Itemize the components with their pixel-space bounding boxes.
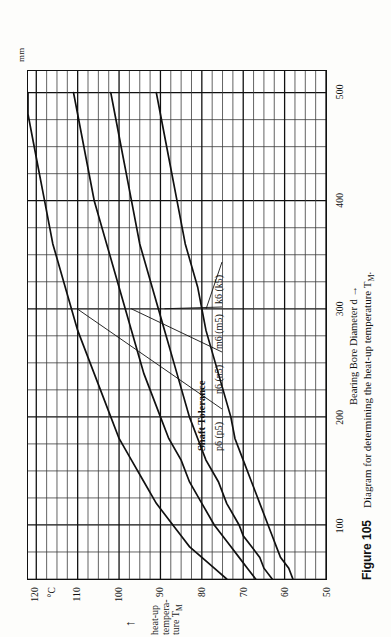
figure-caption-subscript: M bbox=[367, 274, 376, 281]
figure-caption-period: . bbox=[361, 272, 373, 275]
rotated-figure-stage: 100200300400500 mm 1201101009080706050 °… bbox=[0, 0, 391, 637]
y-axis-unit-label: °C bbox=[47, 587, 57, 615]
x-tick-400: 400 bbox=[335, 193, 345, 208]
chart-plot-area bbox=[27, 70, 327, 580]
x-tick-200: 200 bbox=[335, 410, 345, 425]
figure-105: 100200300400500 mm 1201101009080706050 °… bbox=[0, 0, 391, 637]
y-tick-100: 100 bbox=[114, 587, 124, 619]
y-axis-title-line3: ture TM bbox=[171, 599, 186, 635]
y-tick-120: 120 bbox=[30, 587, 40, 619]
y-axis-title-line1: heat-up bbox=[150, 599, 161, 635]
y-axis-title: heat-up tempera- ture TM bbox=[150, 599, 186, 635]
x-tick-300: 300 bbox=[335, 301, 345, 316]
figure-caption: Figure 105Diagram for determining the he… bbox=[360, 272, 376, 580]
figure-caption-text: Diagram for determining the heat-up temp… bbox=[361, 282, 373, 508]
x-axis-title: Bearing Bore Diameter d → bbox=[348, 286, 359, 405]
chart-svg bbox=[28, 71, 326, 579]
y-tick-110: 110 bbox=[72, 587, 82, 619]
y-tick-50: 50 bbox=[322, 587, 332, 619]
y-tick-60: 60 bbox=[280, 587, 290, 619]
y-tick-80: 80 bbox=[197, 587, 207, 619]
y-tick-70: 70 bbox=[239, 587, 249, 619]
curve-label-m6: m6 (m5) bbox=[213, 314, 224, 349]
curve-label-p6: p6 (p5) bbox=[213, 422, 224, 451]
x-tick-100: 100 bbox=[335, 518, 345, 533]
curve-label-k6: k6 (k5) bbox=[213, 275, 224, 304]
x-axis-unit-label: mm bbox=[16, 48, 26, 62]
grid-vertical-lines bbox=[28, 93, 326, 579]
x-tick-500: 500 bbox=[335, 84, 345, 99]
legend-title: Shaft Tolerance bbox=[196, 381, 207, 451]
grid-horizontal-lines bbox=[36, 71, 326, 579]
curve-label-n6: n6 (n5) bbox=[213, 365, 224, 394]
y-axis-arrow-icon: ↑ bbox=[122, 621, 138, 628]
figure-number: Figure 105 bbox=[360, 520, 374, 580]
